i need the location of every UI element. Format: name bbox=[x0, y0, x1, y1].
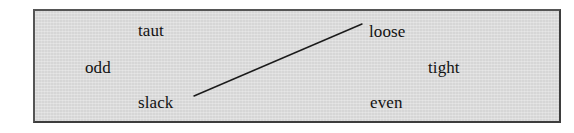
figure-root: taut loose odd tight slack even bbox=[0, 0, 574, 133]
connector-layer bbox=[35, 11, 559, 121]
connector-line-slack-to-loose bbox=[194, 24, 362, 96]
word-label-tight[interactable]: tight bbox=[428, 59, 460, 76]
word-association-panel: taut loose odd tight slack even bbox=[33, 9, 561, 123]
word-label-loose[interactable]: loose bbox=[369, 23, 405, 40]
word-label-odd[interactable]: odd bbox=[85, 59, 111, 76]
word-label-taut[interactable]: taut bbox=[138, 22, 164, 39]
word-label-even[interactable]: even bbox=[370, 94, 403, 111]
word-label-slack[interactable]: slack bbox=[138, 94, 173, 111]
